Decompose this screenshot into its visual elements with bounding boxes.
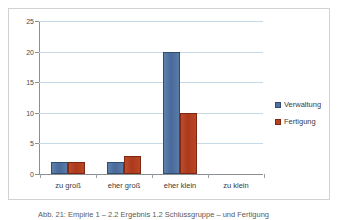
chart-legend[interactable]: VerwaltungFertigung [275,101,321,135]
x-axis-tick [96,174,97,178]
x-axis-category-label: eher groß [108,181,141,190]
chart-frame: 0510152025 zu großeher großeher kleinzu … [8,8,330,200]
y-axis-tick-label: 15 [26,79,34,86]
bar-verwaltung-2[interactable] [163,52,180,174]
x-axis-line [39,174,263,175]
x-axis-tick [40,174,41,178]
legend-item-fertigung[interactable]: Fertigung [275,118,321,126]
y-axis-tick-label: 25 [26,18,34,25]
plot-area: 0510152025 [39,21,263,174]
bar-fertigung-0[interactable] [68,162,85,174]
y-axis-tick-label: 20 [26,48,34,55]
y-axis-tick [35,143,39,144]
legend-item-verwaltung[interactable]: Verwaltung [275,101,321,109]
bar-group [152,21,208,174]
y-axis-tick-label: 0 [30,171,34,178]
bar-fertigung-2[interactable] [180,113,197,174]
x-axis-tick [208,174,209,178]
chart-screenshot: 0510152025 zu großeher großeher kleinzu … [0,0,341,220]
bar-group [208,21,264,174]
bars-layer [40,21,263,174]
x-axis-tick [152,174,153,178]
y-axis-tick-label: 10 [26,109,34,116]
y-axis-tick-label: 5 [30,140,34,147]
legend-label: Verwaltung [284,101,321,109]
y-axis-tick [35,21,39,22]
figure-caption: Abb. 21: Empirie 1 – 2.2 Ergebnis 1.2 Sc… [38,210,308,220]
x-axis-category-label: zu groß [55,181,80,190]
y-axis-tick [35,82,39,83]
x-axis-tick [264,174,265,178]
bar-group [40,21,96,174]
bar-verwaltung-1[interactable] [107,162,124,174]
bar-group [96,21,152,174]
x-axis-category-label: zu klein [223,181,248,190]
legend-swatch-icon [275,119,281,125]
legend-swatch-icon [275,102,281,108]
y-axis-tick [35,113,39,114]
x-axis-category-label: eher klein [164,181,197,190]
bar-verwaltung-0[interactable] [51,162,68,174]
y-axis-tick [35,52,39,53]
bar-fertigung-1[interactable] [124,156,141,174]
legend-label: Fertigung [284,118,316,126]
